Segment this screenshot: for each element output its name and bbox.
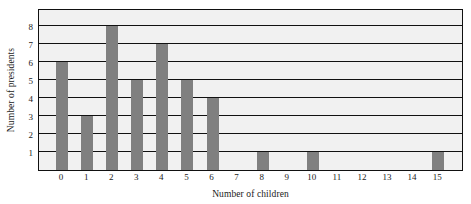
x-axis-tick-label: 14 xyxy=(408,173,417,182)
bar xyxy=(307,152,319,170)
bar xyxy=(81,116,93,170)
bar xyxy=(106,26,118,170)
y-axis-tick-label: 5 xyxy=(29,77,34,86)
x-axis-tick-labels: 0123456789101112131415 xyxy=(38,173,463,187)
chart-figure: Number of presidents 12345678 0123456789… xyxy=(0,0,471,204)
x-axis-tick-label: 0 xyxy=(59,173,64,182)
y-axis-tick-label: 3 xyxy=(29,113,34,122)
x-axis-tick-label: 9 xyxy=(284,173,289,182)
y-axis-tick-label: 7 xyxy=(29,41,34,50)
x-axis-tick-label: 12 xyxy=(357,173,366,182)
y-axis-tick-labels: 12345678 xyxy=(22,9,36,171)
bar xyxy=(207,98,219,170)
x-axis-tick-label: 15 xyxy=(433,173,442,182)
x-axis-tick-label: 11 xyxy=(333,173,342,182)
bar xyxy=(56,62,68,170)
y-axis-tick-label: 2 xyxy=(29,131,34,140)
x-axis-tick-label: 6 xyxy=(209,173,214,182)
y-axis-title: Number of presidents xyxy=(0,0,22,180)
x-axis-title: Number of children xyxy=(38,189,463,199)
y-axis-tick-label: 1 xyxy=(29,149,34,158)
y-axis-title-text: Number of presidents xyxy=(6,48,16,132)
bar xyxy=(131,80,143,170)
y-axis-tick-label: 4 xyxy=(29,95,34,104)
bar xyxy=(432,152,444,170)
bar xyxy=(257,152,269,170)
x-axis-tick-label: 13 xyxy=(383,173,392,182)
plot-area xyxy=(38,9,463,171)
x-axis-tick-label: 4 xyxy=(159,173,164,182)
x-axis-tick-label: 10 xyxy=(307,173,316,182)
x-axis-tick-label: 2 xyxy=(109,173,114,182)
y-axis-tick-label: 8 xyxy=(29,23,34,32)
y-axis-tick-label: 6 xyxy=(29,59,34,68)
x-axis-tick-label: 1 xyxy=(84,173,89,182)
bar-series xyxy=(39,10,462,170)
x-axis-tick-label: 8 xyxy=(259,173,264,182)
x-axis-tick-label: 5 xyxy=(184,173,189,182)
bar xyxy=(156,44,168,170)
bar xyxy=(181,80,193,170)
x-axis-tick-label: 3 xyxy=(134,173,139,182)
x-axis-tick-label: 7 xyxy=(234,173,239,182)
